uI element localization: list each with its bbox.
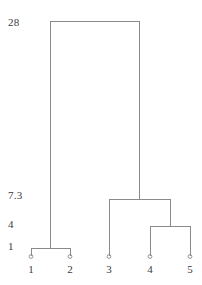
axis-tick-label-28: 28: [8, 17, 20, 28]
merge-bracket-7.3: [109, 199, 170, 256]
leaf-label-5: 5: [187, 264, 193, 275]
merge-bracket-1: [31, 248, 70, 256]
dendrogram-figure: 28 7.3 4 1 1 2 3 4 5: [0, 0, 202, 285]
leaf-label-1: 1: [28, 264, 34, 275]
merge-bracket-4: [150, 226, 190, 256]
axis-tick-label-4: 4: [8, 219, 14, 230]
leaf-label-4: 4: [147, 264, 153, 275]
axis-tick-label-7.3: 7.3: [8, 190, 23, 201]
leaf-markers: [29, 255, 192, 259]
merge-bracket-28: [50, 21, 139, 248]
axis-tick-label-1: 1: [8, 241, 14, 252]
leaf-label-3: 3: [106, 264, 112, 275]
leaf-label-2: 2: [67, 264, 73, 275]
dendrogram-plot: [0, 0, 202, 285]
